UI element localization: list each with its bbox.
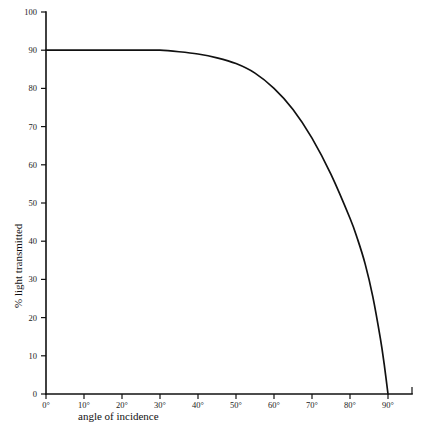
y-tick-label: 60 xyxy=(29,160,38,170)
x-tick-label: 90° xyxy=(382,400,394,410)
x-tick-label: 60° xyxy=(268,400,280,410)
y-tick-label: 20 xyxy=(29,313,38,323)
x-tick-label: 80° xyxy=(344,400,356,410)
x-tick-label: 0° xyxy=(42,400,50,410)
x-tick-label: 30° xyxy=(154,400,166,410)
y-tick-label: 40 xyxy=(29,236,38,246)
y-tick-label: 100 xyxy=(24,7,37,17)
y-tick-label: 0 xyxy=(33,389,37,399)
y-tick-label: 90 xyxy=(29,45,38,55)
transmission-curve-chart: 0102030405060708090100 0°10°20°30°40°50°… xyxy=(0,0,431,435)
y-tick-label: 50 xyxy=(29,198,38,208)
y-tick-label: 80 xyxy=(29,83,38,93)
y-tick-label: 70 xyxy=(29,122,38,132)
x-tick-label: 50° xyxy=(230,400,242,410)
chart-container: 0102030405060708090100 0°10°20°30°40°50°… xyxy=(0,0,431,435)
y-axis-title: % light transmitted xyxy=(12,223,24,308)
x-axis-title: angle of incidence xyxy=(78,410,159,422)
x-tick-label: 10° xyxy=(78,400,90,410)
chart-background xyxy=(0,0,431,435)
x-tick-label: 70° xyxy=(306,400,318,410)
x-tick-label: 20° xyxy=(116,400,128,410)
y-tick-label: 30 xyxy=(29,274,38,284)
x-tick-label: 40° xyxy=(192,400,204,410)
y-tick-label: 10 xyxy=(29,351,38,361)
